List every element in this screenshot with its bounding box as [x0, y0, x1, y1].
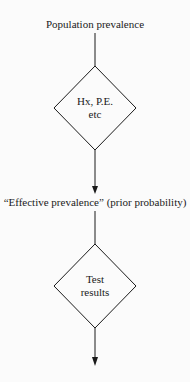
test-results-line-2: results [55, 286, 135, 298]
arrowhead-icon [92, 357, 98, 366]
hx-pe-line-2: etc [55, 108, 135, 120]
effective-prevalence-label: “Effective prevalence” (prior probabilit… [0, 196, 190, 208]
test-results-line-1: Test [55, 273, 135, 285]
flowchart-canvas [0, 0, 190, 382]
population-prevalence-label: Population prevalence [0, 18, 190, 30]
arrowhead-icon [92, 186, 98, 194]
hx-pe-line-1: Hx, P.E. [55, 95, 135, 107]
